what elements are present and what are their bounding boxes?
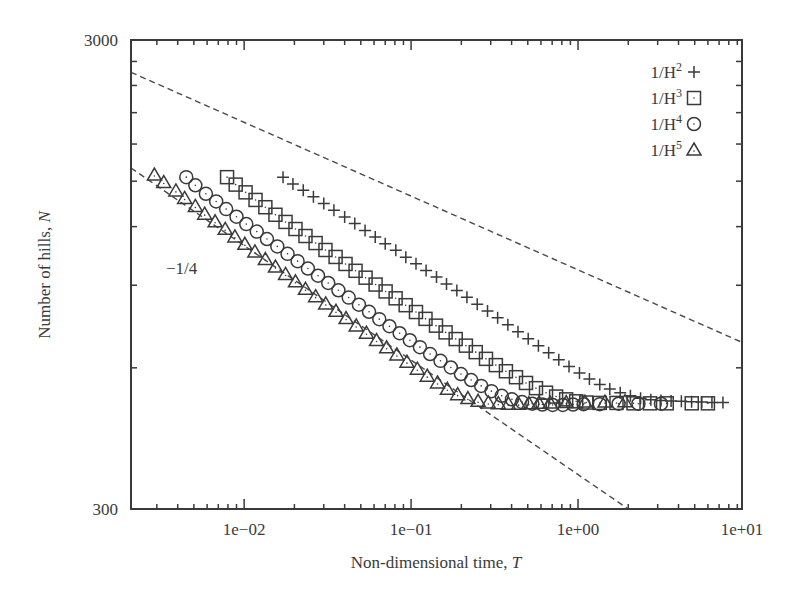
legend: 1/H21/H31/H41/H5 xyxy=(651,60,702,160)
square-marker xyxy=(550,390,563,403)
legend-item-plus: 1/H2 xyxy=(651,60,701,82)
square-marker xyxy=(229,178,242,191)
x-tick-label: 1e−02 xyxy=(223,520,266,539)
plus-marker xyxy=(482,305,494,317)
triangle-marker xyxy=(147,168,161,180)
dashed-reference-line xyxy=(131,72,742,342)
plus-marker xyxy=(359,224,371,236)
legend-item-circle: 1/H4 xyxy=(651,112,701,134)
plus-marker xyxy=(328,204,340,216)
x-axis-title: Non-dimensional time, T xyxy=(351,553,523,572)
square-marker xyxy=(259,201,272,214)
square-marker xyxy=(239,186,252,199)
plus-marker xyxy=(307,191,319,203)
legend-circle-icon xyxy=(688,118,701,131)
plus-marker xyxy=(410,258,422,270)
hills-vs-time-chart: 1e−021e−011e+001e+01 3003000 1/H21/H31/H… xyxy=(0,0,806,600)
y-tick-label: 300 xyxy=(93,500,119,519)
legend-triangle-icon xyxy=(687,143,701,155)
plus-marker xyxy=(277,171,289,183)
square-marker xyxy=(221,171,234,184)
plus-marker xyxy=(573,367,585,379)
plus-marker xyxy=(420,264,432,276)
annotations: −1/4 xyxy=(166,259,198,278)
plus-marker xyxy=(431,271,443,283)
square-marker xyxy=(249,193,262,206)
legend-plus-icon xyxy=(688,66,700,78)
plus-marker xyxy=(287,178,299,190)
plus-marker xyxy=(451,285,463,297)
plus-marker xyxy=(461,291,473,303)
x-tick-label: 1e−01 xyxy=(390,520,433,539)
reference-lines xyxy=(131,72,742,509)
x-tick-label: 1e+01 xyxy=(721,520,764,539)
plus-marker xyxy=(522,333,534,345)
plus-marker xyxy=(563,360,575,372)
legend-label: 1/H4 xyxy=(651,112,683,134)
legend-label: 1/H2 xyxy=(651,60,683,82)
plus-marker xyxy=(502,319,514,331)
triangle-marker xyxy=(178,191,192,203)
triangle-marker xyxy=(169,184,183,196)
circle-marker xyxy=(485,385,498,398)
plus-marker xyxy=(583,373,595,385)
plus-marker xyxy=(441,278,453,290)
y-tick-label: 3000 xyxy=(84,31,118,50)
circle-marker xyxy=(465,374,478,387)
plus-marker xyxy=(349,218,361,230)
plus-marker xyxy=(553,354,565,366)
square-marker xyxy=(529,382,542,395)
plus-marker xyxy=(369,231,381,243)
plus-marker xyxy=(318,197,330,209)
triangle-marker xyxy=(157,176,171,188)
plus-marker xyxy=(492,312,504,324)
x-tick-label: 1e+00 xyxy=(557,520,600,539)
plus-marker xyxy=(717,397,729,409)
plus-marker xyxy=(339,211,351,223)
slope-annotation: −1/4 xyxy=(166,259,198,278)
plus-marker xyxy=(297,184,309,196)
plus-marker xyxy=(471,298,483,310)
triangle-marker xyxy=(198,207,212,219)
y-axis-title: Number of hills, N xyxy=(35,210,54,339)
plus-marker xyxy=(512,326,524,338)
legend-square-icon xyxy=(688,92,701,105)
plus-marker xyxy=(400,251,412,263)
legend-label: 1/H3 xyxy=(651,86,683,108)
plus-marker xyxy=(543,347,555,359)
legend-item-triangle: 1/H5 xyxy=(651,138,702,160)
plus-marker xyxy=(390,244,402,256)
legend-item-square: 1/H3 xyxy=(651,86,701,108)
data-series xyxy=(147,168,729,411)
plus-marker xyxy=(532,340,544,352)
plus-marker xyxy=(706,397,718,409)
legend-label: 1/H5 xyxy=(651,138,683,160)
plus-marker xyxy=(379,238,391,250)
series-triangle xyxy=(147,168,632,409)
